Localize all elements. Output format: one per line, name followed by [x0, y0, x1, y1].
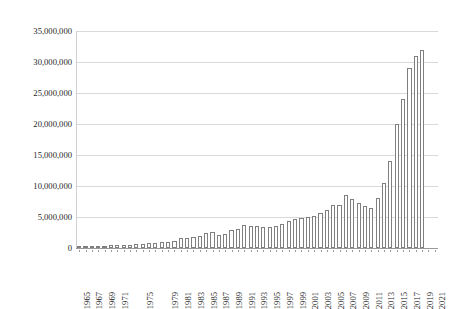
x-tick-label: 2017 [413, 292, 422, 309]
x-tick-label: 1979 [171, 292, 180, 309]
bar [255, 226, 259, 248]
bar [363, 206, 367, 248]
bar [210, 232, 214, 248]
x-tick-mark [232, 250, 233, 252]
x-tick-mark [384, 250, 385, 252]
x-tick-mark [181, 250, 182, 252]
x-tick-label: 1995 [273, 292, 282, 309]
x-tick-mark [397, 250, 398, 252]
bar [395, 124, 399, 248]
x-tick-label: 1969 [108, 292, 117, 309]
x-tick-mark [416, 250, 417, 252]
x-tick-mark [352, 250, 353, 252]
x-tick-mark [124, 250, 125, 252]
y-tick-label: 35,000,000 [0, 27, 72, 36]
x-tick-mark [428, 250, 429, 252]
x-tick-mark [130, 250, 131, 252]
x-tick-mark [213, 250, 214, 252]
bar [312, 216, 316, 248]
x-tick-mark [359, 250, 360, 252]
x-tick-mark [282, 250, 283, 252]
x-tick-mark [365, 250, 366, 252]
bar [223, 234, 227, 248]
x-tick-mark [238, 250, 239, 252]
x-tick-label: 1999 [299, 292, 308, 309]
y-tick-label: 30,000,000 [0, 58, 72, 67]
x-tick-label: 1993 [260, 292, 269, 309]
x-tick-mark [409, 250, 410, 252]
x-tick-label: 2015 [400, 292, 409, 309]
x-tick-mark [193, 250, 194, 252]
bar [388, 161, 392, 248]
bar [268, 227, 272, 248]
bar [185, 238, 189, 248]
x-tick-label: 2003 [324, 292, 333, 309]
x-tick-mark [321, 250, 322, 252]
x-tick-label: 1997 [286, 292, 295, 309]
bar-series [76, 31, 438, 248]
bar [350, 199, 354, 248]
x-tick-label: 2007 [349, 292, 358, 309]
x-tick-label: 1975 [146, 292, 155, 309]
bar [369, 208, 373, 248]
x-tick-label: 1989 [235, 292, 244, 309]
y-tick-label: 5,000,000 [0, 213, 72, 222]
x-tick-mark [289, 250, 290, 252]
x-tick-label: 2019 [426, 292, 435, 309]
bar [274, 226, 278, 248]
x-tick-label: 2005 [337, 292, 346, 309]
x-tick-mark [327, 250, 328, 252]
x-tick-mark [314, 250, 315, 252]
x-tick-mark [92, 250, 93, 252]
x-tick-mark [117, 250, 118, 252]
bar [249, 226, 253, 248]
x-tick-mark [295, 250, 296, 252]
bar [280, 224, 284, 248]
y-tick-label: 10,000,000 [0, 182, 72, 191]
x-tick-mark [422, 250, 423, 252]
x-tick-label: 1965 [83, 292, 92, 309]
x-tick-mark [168, 250, 169, 252]
x-tick-mark [251, 250, 252, 252]
x-tick-mark [79, 250, 80, 252]
bar [204, 233, 208, 249]
bar [236, 229, 240, 248]
y-tick-label: 20,000,000 [0, 120, 72, 129]
x-tick-label: 2011 [375, 292, 384, 309]
bar [331, 205, 335, 248]
x-tick-mark [371, 250, 372, 252]
bar [376, 198, 380, 248]
x-tick-mark [378, 250, 379, 252]
bar [172, 241, 176, 248]
x-tick-mark [333, 250, 334, 252]
bar [217, 235, 221, 248]
x-axis-labels: 1965196719691971197519791981198319851987… [76, 250, 438, 295]
bar [344, 195, 348, 248]
x-tick-mark [174, 250, 175, 252]
x-tick-mark [244, 250, 245, 252]
bar [357, 203, 361, 248]
x-tick-mark [200, 250, 201, 252]
y-tick-label: 0 [0, 244, 72, 253]
x-tick-mark [403, 250, 404, 252]
x-tick-mark [270, 250, 271, 252]
x-tick-mark [219, 250, 220, 252]
y-tick-label: 25,000,000 [0, 89, 72, 98]
x-tick-label: 1967 [95, 292, 104, 309]
x-tick-label: 1985 [210, 292, 219, 309]
bar [287, 221, 291, 248]
x-tick-mark [308, 250, 309, 252]
x-tick-mark [155, 250, 156, 252]
x-tick-mark [136, 250, 137, 252]
bar [229, 230, 233, 248]
bar [401, 99, 405, 248]
x-tick-label: 2021 [438, 292, 447, 309]
x-axis-line [76, 248, 438, 249]
bar [325, 210, 329, 248]
bar [414, 56, 418, 248]
x-tick-mark [111, 250, 112, 252]
bar [293, 219, 297, 248]
x-tick-label: 2013 [387, 292, 396, 309]
bar [337, 205, 341, 248]
